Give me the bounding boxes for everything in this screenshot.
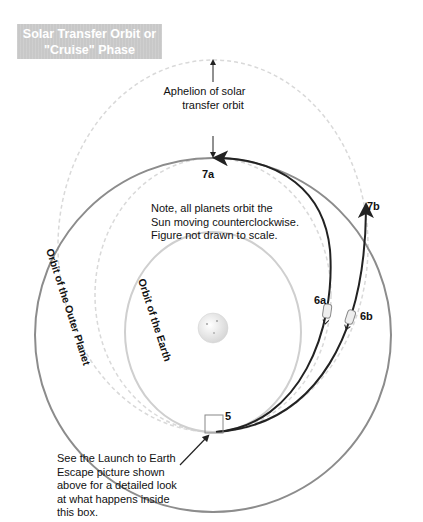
launch-note-line-2: Escape picture shown — [57, 466, 177, 480]
launch-note-line-3: above for a detailed look — [57, 479, 177, 493]
spacecraft-6a-icon — [321, 304, 332, 325]
note-annotation: Note, all planets orbit the Sun moving c… — [151, 202, 299, 243]
label-7b: 7b — [367, 200, 380, 212]
label-6b: 6b — [360, 310, 373, 322]
launch-box — [205, 415, 223, 433]
launch-note-line-1: See the Launch to Earth — [57, 452, 177, 466]
note-line-2: Sun moving counterclockwise. — [151, 216, 299, 230]
launch-pointer-arrow — [180, 437, 207, 465]
launch-note-line-5: this box. — [57, 506, 177, 520]
aphelion-line-1: Aphelion of solar — [163, 85, 246, 99]
note-line-1: Note, all planets orbit the — [151, 202, 299, 216]
label-6a: 6a — [314, 294, 327, 306]
aphelion-line-2: transfer orbit — [180, 99, 246, 113]
sun-icon — [198, 313, 228, 343]
spacecraft-6b-icon — [342, 309, 356, 330]
aphelion-annotation: Aphelion of solar transfer orbit — [180, 85, 246, 112]
label-5: 5 — [225, 410, 231, 422]
outer-orbit-label: Orbit of the Outer Planet — [44, 247, 93, 367]
orbit-diagram: 7a 7b 6a 6b 5 Orbit of the Outer Planet … — [0, 0, 423, 522]
launch-note-line-4: at what happens inside — [57, 493, 177, 507]
label-7a: 7a — [202, 168, 215, 180]
note-line-3: Figure not drawn to scale. — [151, 229, 299, 243]
launch-box-annotation: See the Launch to Earth Escape picture s… — [57, 452, 177, 520]
earth-orbit-label: Orbit of the Earth — [136, 277, 174, 363]
